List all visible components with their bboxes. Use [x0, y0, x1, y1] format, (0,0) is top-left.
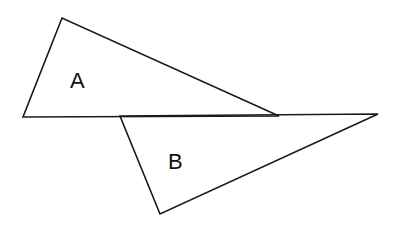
- triangle-a-label: A: [70, 68, 85, 93]
- geometry-diagram: A B: [0, 0, 397, 243]
- triangle-b-label: B: [168, 149, 183, 174]
- triangle-a-group: A: [23, 18, 279, 117]
- triangle-a: [23, 18, 279, 117]
- triangle-b: [120, 114, 378, 214]
- triangle-b-group: B: [120, 114, 378, 214]
